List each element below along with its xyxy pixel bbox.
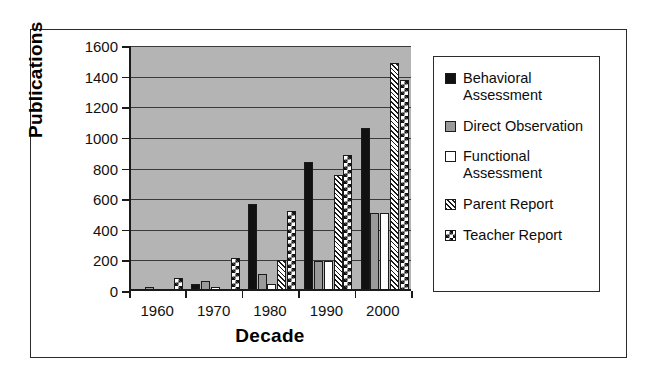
bar-1980-behavioral-assessment (248, 204, 257, 291)
legend-item-teacher-report[interactable]: Teacher Report (445, 227, 589, 244)
legend-swatch-icon (445, 230, 456, 241)
x-tick-label-1970: 1970 (184, 302, 244, 319)
bar-2000-parent-report (390, 63, 399, 291)
bar-group-1990 (300, 46, 356, 291)
legend-label: Parent Report (463, 196, 553, 213)
bar-group-1960 (131, 46, 187, 291)
chart-figure: Publications 020040060080010001200140016… (30, 29, 627, 358)
bar-2000-functional-assessment (380, 213, 389, 291)
bar-1990-teacher-report (343, 155, 352, 291)
x-tick-mark (355, 291, 357, 298)
legend-label: Behavioral Assessment (463, 70, 589, 104)
y-tick-label: 800 (56, 161, 118, 176)
chart-legend: Behavioral AssessmentDirect ObservationF… (433, 56, 600, 292)
bar-1990-direct-observation (314, 261, 323, 291)
x-axis-line (131, 289, 411, 291)
legend-label: Teacher Report (463, 227, 562, 244)
x-tick-mark (411, 291, 413, 298)
bar-1990-parent-report (334, 175, 343, 291)
legend-item-direct-observation[interactable]: Direct Observation (445, 118, 589, 135)
y-tick-mark (122, 169, 129, 171)
legend-swatch-icon (445, 151, 456, 162)
x-tick-label-1980: 1980 (240, 302, 300, 319)
y-tick-label: 200 (56, 253, 118, 268)
bar-1990-behavioral-assessment (304, 162, 313, 291)
bar-1980-parent-report (277, 260, 286, 291)
legend-item-functional-assessment[interactable]: Functional Assessment (445, 148, 589, 182)
bar-2000-direct-observation (370, 213, 379, 291)
bar-group-1980 (244, 46, 300, 291)
x-tick-mark (298, 291, 300, 298)
legend-item-behavioral-assessment[interactable]: Behavioral Assessment (445, 70, 589, 104)
bar-1970-teacher-report (231, 258, 240, 291)
legend-label: Direct Observation (463, 118, 583, 135)
y-tick-mark (122, 199, 129, 201)
legend-swatch-icon (445, 121, 456, 132)
legend-swatch-icon (445, 73, 456, 84)
bar-2000-teacher-report (400, 80, 409, 291)
x-tick-mark (242, 291, 244, 298)
legend-swatch-icon (445, 199, 456, 210)
x-tick-label-1960: 1960 (127, 302, 187, 319)
y-tick-label: 1200 (56, 100, 118, 115)
y-tick-label: 0 (56, 284, 118, 299)
x-tick-label-1990: 1990 (296, 302, 356, 319)
y-tick-mark (122, 260, 129, 262)
legend-item-parent-report[interactable]: Parent Report (445, 196, 589, 213)
y-axis-title: Publications (25, 21, 47, 138)
y-tick-label: 1400 (56, 69, 118, 84)
bar-2000-behavioral-assessment (361, 128, 370, 291)
y-tick-label: 400 (56, 222, 118, 237)
y-tick-label: 1600 (56, 39, 118, 54)
y-tick-mark (122, 107, 129, 109)
bar-1990-functional-assessment (324, 261, 333, 291)
plot-area (129, 46, 411, 291)
legend-label: Functional Assessment (463, 148, 589, 182)
bar-1980-teacher-report (287, 211, 296, 291)
y-tick-mark (122, 138, 129, 140)
y-tick-mark (122, 46, 129, 48)
x-tick-mark (185, 291, 187, 298)
y-tick-label: 1000 (56, 130, 118, 145)
y-tick-mark (122, 77, 129, 79)
bar-group-1970 (187, 46, 243, 291)
y-tick-mark (122, 230, 129, 232)
x-tick-mark (129, 291, 131, 298)
x-tick-label-2000: 2000 (353, 302, 413, 319)
y-tick-label: 600 (56, 192, 118, 207)
y-tick-mark (122, 291, 129, 293)
x-axis-title: Decade (129, 325, 411, 347)
bar-group-2000 (357, 46, 413, 291)
